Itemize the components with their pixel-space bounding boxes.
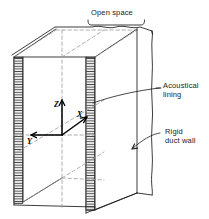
axis-label-y: Y <box>27 137 32 146</box>
duct-diagram: Open space Acoustical lining Rigid duct … <box>0 0 209 219</box>
axis-label-z: Z <box>54 100 59 109</box>
rigid-duct-wall-face <box>137 29 153 195</box>
rigid-duct-wall-label-line2: duct wall <box>165 136 196 146</box>
top-face-hidden-lines <box>14 30 137 57</box>
bottom-face <box>14 178 137 213</box>
open-space-bracket <box>88 20 145 25</box>
acoustical-lining-label-line2: lining <box>163 90 181 100</box>
top-face <box>12 26 153 57</box>
axis-label-x: X <box>77 110 82 119</box>
open-space-label: Open space <box>91 8 133 18</box>
diagram-canvas <box>0 0 209 219</box>
acoustical-lining-right <box>86 57 94 210</box>
acoustical-lining-left <box>14 57 22 203</box>
leader-lines <box>93 88 161 149</box>
